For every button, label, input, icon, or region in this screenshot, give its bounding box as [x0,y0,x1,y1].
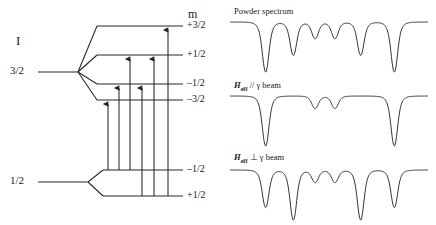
m-label-excited-p32: +3/2 [187,19,205,30]
m-label-excited-m32: –3/2 [187,93,205,104]
m-label-ground-m12: –1/2 [187,163,205,174]
spectrum-title-powder-text: Powder spectrum [234,6,293,16]
m-label-excited-p12: +1/2 [187,48,205,59]
spectrum-trace-h-parallel-gamma [230,96,428,146]
energy-level-diagram: I 3/2 1/2 m +3/2 +1/2 –1/2 –3/2 –1/2 +1/… [0,0,218,225]
figure-root: I 3/2 1/2 m +3/2 +1/2 –1/2 –3/2 –1/2 +1/… [0,0,436,225]
h-symbol-perpendicular: H [234,152,241,162]
spectrum-trace-h-perpendicular-gamma [230,170,428,220]
spectrum-title-parallel: Heff // γ beam [234,80,281,92]
spin-header: I [16,33,20,49]
h-subscript-parallel: eff [241,85,248,92]
level-diagram-canvas [0,0,218,225]
ground-spin-label: 1/2 [10,174,24,186]
h-subscript-perpendicular: eff [241,157,248,164]
m-label-ground-p12: +1/2 [187,189,205,200]
spectrum-trace-powder [230,22,428,72]
excited-spin-label: 3/2 [10,64,24,76]
h-rest-parallel: // γ beam [248,80,281,90]
h-symbol-parallel: H [234,80,241,90]
h-rest-perpendicular: ⊥ γ beam [248,152,285,162]
spectra-canvas [216,0,436,225]
m-label-excited-m12: –1/2 [187,77,205,88]
spectrum-title-perpendicular: Heff ⊥ γ beam [234,152,284,164]
spectrum-title-powder: Powder spectrum [234,6,293,16]
spectra-panel: Powder spectrum Heff // γ beam Heff ⊥ γ … [216,0,436,225]
